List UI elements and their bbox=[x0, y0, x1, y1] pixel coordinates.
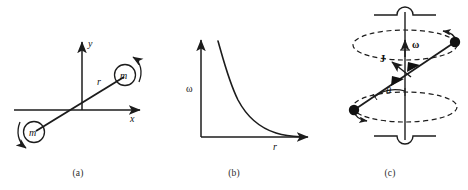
mass-left-label: m bbox=[29, 127, 36, 138]
mass-lower bbox=[349, 105, 359, 115]
panel-c: ω J θ (c) bbox=[312, 0, 468, 190]
caption-a: (a) bbox=[0, 168, 156, 178]
omega-vs-r-curve bbox=[218, 41, 300, 137]
panel-a-drawing: y x r m m bbox=[0, 0, 156, 160]
caption-c: (c) bbox=[312, 168, 468, 178]
caption-b: (b) bbox=[156, 168, 312, 178]
theta-label: θ bbox=[386, 85, 391, 96]
y-axis-label: y bbox=[87, 38, 93, 49]
J-label: J bbox=[380, 53, 385, 64]
radius-label: r bbox=[97, 76, 101, 87]
panel-c-drawing: ω J θ bbox=[312, 0, 468, 160]
panel-b: ω r (b) bbox=[156, 0, 312, 190]
chart-y-axis-label: ω bbox=[186, 83, 193, 94]
omega-label: ω bbox=[412, 39, 419, 50]
mass-right-label: m bbox=[120, 70, 127, 81]
mass-upper bbox=[450, 37, 460, 47]
x-axis-label: x bbox=[129, 113, 135, 124]
chart-x-axis-label: r bbox=[273, 141, 277, 152]
panel-a: y x r m m (a) bbox=[0, 0, 156, 190]
panel-b-chart: ω r bbox=[156, 0, 312, 160]
connecting-rod bbox=[36, 77, 124, 131]
physics-figure: y x r m m (a) ω r (b) bbox=[0, 0, 468, 190]
